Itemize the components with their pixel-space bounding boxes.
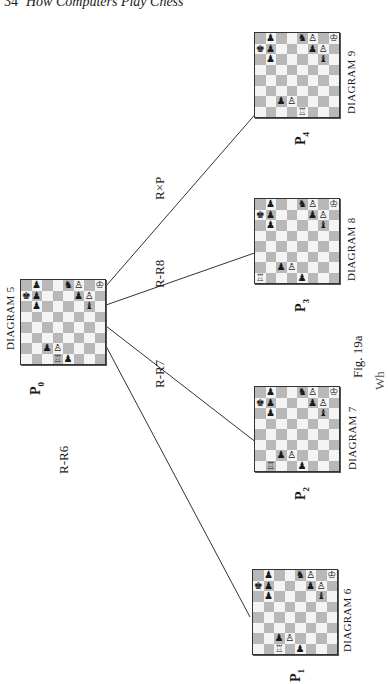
board-square xyxy=(297,54,308,65)
board-square xyxy=(287,65,298,76)
board-square xyxy=(21,322,32,333)
board-square xyxy=(329,252,340,263)
board-square xyxy=(95,354,106,365)
board-square xyxy=(266,252,277,263)
board-square xyxy=(21,312,32,323)
board-square xyxy=(329,241,340,252)
board-square xyxy=(329,44,340,55)
board-square xyxy=(306,633,317,644)
move-label: R-R7 xyxy=(152,360,168,388)
board-square xyxy=(327,623,338,634)
board-square xyxy=(329,450,340,461)
chess-board-diagram-7: ♟♞♙♔♚♟♟♙♟♝♟♙♖♟ xyxy=(254,386,340,472)
board-square xyxy=(255,252,266,263)
board-square: ♟ xyxy=(276,96,287,107)
board-square xyxy=(318,273,329,284)
board-square xyxy=(287,461,298,472)
board-square xyxy=(287,54,298,65)
board-square: ♙ xyxy=(287,262,298,273)
board-square xyxy=(287,44,298,55)
board-square: ♙ xyxy=(287,96,298,107)
board-square xyxy=(266,429,277,440)
board-square xyxy=(327,633,338,644)
board-square: ♚ xyxy=(255,210,266,221)
board-square xyxy=(276,398,287,409)
board-square xyxy=(74,312,85,323)
board-square xyxy=(95,301,106,312)
board-square xyxy=(327,602,338,613)
board-square xyxy=(63,343,74,354)
board-square xyxy=(308,75,319,86)
board-square: ♚ xyxy=(253,581,264,592)
board-square xyxy=(255,387,266,398)
board-square xyxy=(266,273,277,284)
board-square xyxy=(308,231,319,242)
board-square xyxy=(295,623,306,634)
board-square xyxy=(287,210,298,221)
board-square xyxy=(74,301,85,312)
board-square xyxy=(318,107,329,118)
board-square: ♖ xyxy=(297,107,308,118)
diagram-label: DIAGRAM 6 xyxy=(341,588,353,652)
board-square xyxy=(53,291,64,302)
board-square: ♟ xyxy=(63,354,74,365)
board-square xyxy=(297,75,308,86)
diagram-label: DIAGRAM 9 xyxy=(345,50,357,114)
board-square xyxy=(318,262,329,273)
chess-board-diagram-8: ♟♞♙♔♚♟♟♙♟♝♟♙♖♟ xyxy=(254,198,340,284)
board-square xyxy=(329,461,340,472)
board-square xyxy=(95,291,106,302)
board-square xyxy=(308,241,319,252)
board-square xyxy=(53,301,64,312)
board-square xyxy=(297,440,308,451)
board-square xyxy=(287,387,298,398)
board-square xyxy=(308,461,319,472)
board-square xyxy=(306,612,317,623)
board-square: ♞ xyxy=(297,33,308,44)
board-square: ♝ xyxy=(84,301,95,312)
board-square: ♝ xyxy=(316,591,327,602)
board-square xyxy=(308,419,319,430)
board-square xyxy=(276,210,287,221)
board-square xyxy=(266,107,277,118)
board-square xyxy=(285,602,296,613)
board-square xyxy=(255,54,266,65)
board-square: ♔ xyxy=(327,570,338,581)
board-square xyxy=(74,343,85,354)
board-square xyxy=(266,75,277,86)
board-square xyxy=(297,429,308,440)
board-square xyxy=(266,65,277,76)
board-square xyxy=(42,322,53,333)
board-square xyxy=(74,322,85,333)
board-square: ♙ xyxy=(74,280,85,291)
diagram-label: DIAGRAM 8 xyxy=(345,217,357,281)
board-square: ♟ xyxy=(32,280,43,291)
board-square xyxy=(276,387,287,398)
board-square xyxy=(63,291,74,302)
board-square: ♟ xyxy=(276,450,287,461)
board-square xyxy=(295,591,306,602)
board-square: ♟ xyxy=(266,220,277,231)
board-square xyxy=(274,570,285,581)
board-square xyxy=(329,262,340,273)
board-square xyxy=(21,301,32,312)
board-square: ♙ xyxy=(308,199,319,210)
board-square xyxy=(316,570,327,581)
board-square xyxy=(276,75,287,86)
board-square xyxy=(253,644,264,655)
board-square: ♙ xyxy=(308,33,319,44)
board-square: ♝ xyxy=(318,408,329,419)
board-square xyxy=(318,252,329,263)
board-square xyxy=(287,419,298,430)
board-square: ♟ xyxy=(266,54,277,65)
board-square: ♙ xyxy=(306,570,317,581)
board-square: ♚ xyxy=(255,398,266,409)
board-square xyxy=(255,262,266,273)
board-square xyxy=(308,65,319,76)
position-label-p4: P4 xyxy=(293,132,311,145)
board-square xyxy=(329,408,340,419)
board-square xyxy=(74,354,85,365)
board-square xyxy=(53,280,64,291)
chess-board-diagram-5: ♟♞♙♔♚♟♟♙♟♝♟♙♖♟ xyxy=(20,279,106,365)
board-square: ♞ xyxy=(297,387,308,398)
